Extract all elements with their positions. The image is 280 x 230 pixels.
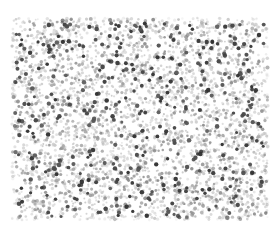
speckle-dot-field bbox=[0, 0, 280, 230]
